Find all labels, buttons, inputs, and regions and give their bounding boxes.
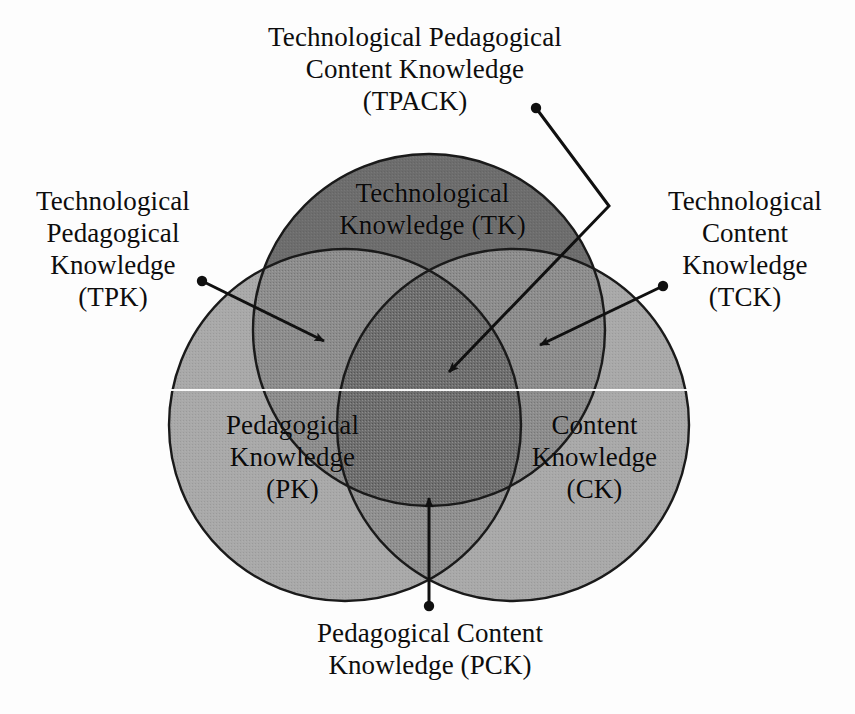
label-tck: Technological Content Knowledge (TCK) — [640, 186, 850, 313]
label-pk: Pedagogical Knowledge (PK) — [190, 410, 395, 506]
tpack-diagram: Technological Pedagogical Content Knowle… — [0, 0, 855, 714]
label-pck: Pedagogical Content Knowledge (PCK) — [235, 618, 625, 682]
label-ck: Content Knowledge (CK) — [492, 410, 697, 506]
label-tk: Technological Knowledge (TK) — [300, 178, 565, 242]
label-tpack: Technological Pedagogical Content Knowle… — [215, 22, 615, 118]
leader-dot-pck — [424, 601, 434, 611]
label-tpk: Technological Pedagogical Knowledge (TPK… — [8, 186, 218, 313]
